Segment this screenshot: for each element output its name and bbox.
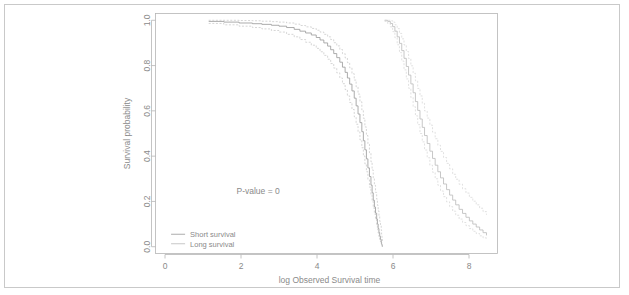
x-axis-tick-label: 6	[391, 261, 396, 271]
y-axis-tick-label: 1.0	[142, 14, 152, 26]
y-axis-title: Survival probability	[122, 97, 132, 169]
y-axis-tick-label: 0.6	[142, 105, 152, 117]
y-axis-tick-label: 0.0	[142, 241, 152, 253]
survival-curve-line	[385, 21, 487, 239]
survival-curve-line	[209, 23, 383, 246]
pvalue-annotation: P-value = 0	[236, 186, 280, 196]
x-axis-tick-label: 2	[239, 261, 244, 271]
x-axis-tick-label: 4	[315, 261, 320, 271]
survival-curve-figure: 0.00.20.40.60.81.002468log Observed Surv…	[0, 0, 629, 295]
survival-curve-line	[209, 20, 383, 241]
survival-curve-line	[385, 20, 487, 235]
x-axis-tick-label: 0	[163, 261, 168, 271]
x-axis-tick-label: 8	[467, 261, 472, 271]
y-axis-tick-label: 0.4	[142, 150, 152, 162]
kaplan-meier-plot: 0.00.20.40.60.81.002468log Observed Surv…	[0, 0, 629, 295]
plot-border	[156, 14, 498, 254]
legend-label: Long survival	[190, 240, 235, 249]
survival-curve-line	[209, 21, 383, 246]
survival-curve-line	[385, 20, 487, 214]
y-axis-tick-label: 0.8	[142, 59, 152, 71]
y-axis-tick-label: 0.2	[142, 195, 152, 207]
legend-label: Short survival	[190, 230, 236, 239]
x-axis-title: log Observed Survival time	[279, 275, 381, 285]
